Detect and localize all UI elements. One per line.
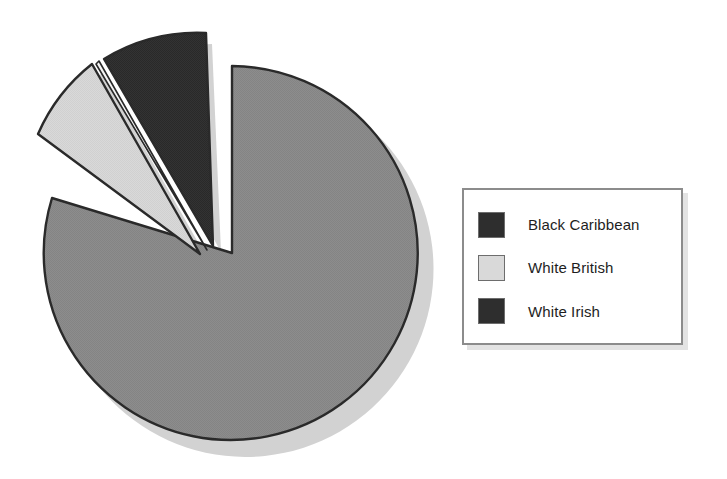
chart-legend: Black Caribbean White British White Iris… bbox=[462, 188, 683, 345]
legend-label-black-caribbean: Black Caribbean bbox=[528, 217, 640, 232]
legend-item-white-irish[interactable]: White Irish bbox=[478, 290, 671, 333]
pie-chart-plot-area bbox=[0, 0, 440, 479]
legend-swatch-black-caribbean bbox=[478, 212, 505, 238]
legend-item-black-caribbean[interactable]: Black Caribbean bbox=[478, 203, 671, 246]
legend-swatch-white-british bbox=[478, 255, 505, 281]
legend-swatch-white-irish bbox=[478, 298, 505, 324]
pie-chart-svg bbox=[0, 0, 440, 479]
legend-item-white-british[interactable]: White British bbox=[478, 246, 671, 289]
pie-chart-figure: Black Caribbean White British White Iris… bbox=[0, 0, 727, 479]
legend-label-white-british: White British bbox=[528, 260, 614, 275]
legend-label-white-irish: White Irish bbox=[528, 304, 600, 319]
